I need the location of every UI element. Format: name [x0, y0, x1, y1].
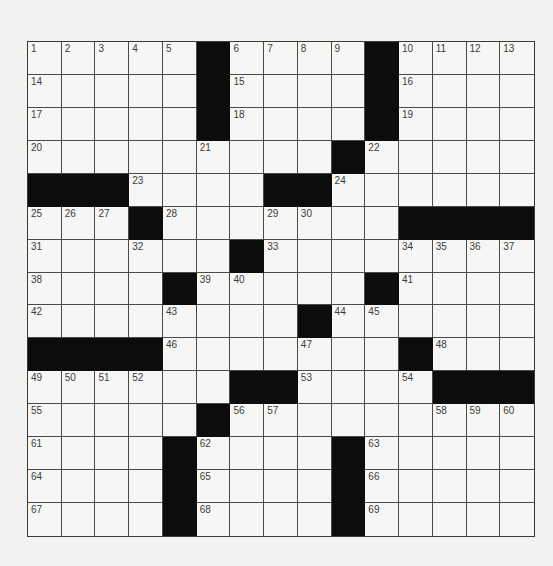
- grid-cell[interactable]: [197, 240, 231, 273]
- grid-cell[interactable]: 33: [264, 240, 298, 273]
- grid-cell[interactable]: 65: [197, 470, 231, 503]
- grid-cell[interactable]: [163, 404, 197, 437]
- grid-cell[interactable]: [467, 174, 501, 207]
- grid-cell[interactable]: [500, 470, 534, 503]
- grid-cell[interactable]: [399, 437, 433, 470]
- grid-cell[interactable]: 31: [28, 240, 62, 273]
- grid-cell[interactable]: [230, 207, 264, 240]
- grid-cell[interactable]: [230, 174, 264, 207]
- grid-cell[interactable]: [500, 338, 534, 371]
- grid-cell[interactable]: [163, 141, 197, 174]
- grid-cell[interactable]: 32: [129, 240, 163, 273]
- grid-cell[interactable]: [433, 75, 467, 108]
- grid-cell[interactable]: 48: [433, 338, 467, 371]
- grid-cell[interactable]: 41: [399, 273, 433, 306]
- grid-cell[interactable]: [230, 437, 264, 470]
- grid-cell[interactable]: 23: [129, 174, 163, 207]
- grid-cell[interactable]: [197, 174, 231, 207]
- grid-cell[interactable]: [298, 404, 332, 437]
- grid-cell[interactable]: 46: [163, 338, 197, 371]
- grid-cell[interactable]: [197, 207, 231, 240]
- grid-cell[interactable]: [62, 503, 96, 536]
- grid-cell[interactable]: [197, 371, 231, 404]
- grid-cell[interactable]: 54: [399, 371, 433, 404]
- grid-cell[interactable]: [95, 305, 129, 338]
- grid-cell[interactable]: [163, 240, 197, 273]
- grid-cell[interactable]: 52: [129, 371, 163, 404]
- grid-cell[interactable]: [332, 108, 366, 141]
- grid-cell[interactable]: 5: [163, 42, 197, 75]
- grid-cell[interactable]: 8: [298, 42, 332, 75]
- grid-cell[interactable]: 9: [332, 42, 366, 75]
- grid-cell[interactable]: 51: [95, 371, 129, 404]
- grid-cell[interactable]: 34: [399, 240, 433, 273]
- grid-cell[interactable]: [332, 75, 366, 108]
- grid-cell[interactable]: [62, 240, 96, 273]
- grid-cell[interactable]: [62, 141, 96, 174]
- grid-cell[interactable]: 26: [62, 207, 96, 240]
- grid-cell[interactable]: 39: [197, 273, 231, 306]
- grid-cell[interactable]: [500, 437, 534, 470]
- grid-cell[interactable]: 11: [433, 42, 467, 75]
- grid-cell[interactable]: 59: [467, 404, 501, 437]
- grid-cell[interactable]: [163, 75, 197, 108]
- grid-cell[interactable]: [332, 207, 366, 240]
- grid-cell[interactable]: [332, 338, 366, 371]
- grid-cell[interactable]: 17: [28, 108, 62, 141]
- grid-cell[interactable]: [129, 470, 163, 503]
- grid-cell[interactable]: [433, 437, 467, 470]
- grid-cell[interactable]: 16: [399, 75, 433, 108]
- grid-cell[interactable]: 69: [365, 503, 399, 536]
- grid-cell[interactable]: 27: [95, 207, 129, 240]
- grid-cell[interactable]: 25: [28, 207, 62, 240]
- grid-cell[interactable]: [500, 273, 534, 306]
- grid-cell[interactable]: 47: [298, 338, 332, 371]
- grid-cell[interactable]: [264, 141, 298, 174]
- grid-cell[interactable]: [332, 371, 366, 404]
- grid-cell[interactable]: [129, 108, 163, 141]
- grid-cell[interactable]: [467, 437, 501, 470]
- grid-cell[interactable]: 13: [500, 42, 534, 75]
- grid-cell[interactable]: [197, 338, 231, 371]
- grid-cell[interactable]: 45: [365, 305, 399, 338]
- grid-cell[interactable]: [433, 503, 467, 536]
- grid-cell[interactable]: [399, 305, 433, 338]
- grid-cell[interactable]: 50: [62, 371, 96, 404]
- grid-cell[interactable]: [95, 108, 129, 141]
- grid-cell[interactable]: [467, 470, 501, 503]
- grid-cell[interactable]: [163, 108, 197, 141]
- grid-cell[interactable]: [129, 141, 163, 174]
- grid-cell[interactable]: [129, 273, 163, 306]
- grid-cell[interactable]: [500, 305, 534, 338]
- grid-cell[interactable]: [129, 75, 163, 108]
- grid-cell[interactable]: [467, 141, 501, 174]
- grid-cell[interactable]: [230, 141, 264, 174]
- grid-cell[interactable]: 14: [28, 75, 62, 108]
- grid-cell[interactable]: 61: [28, 437, 62, 470]
- grid-cell[interactable]: [264, 437, 298, 470]
- grid-cell[interactable]: [365, 207, 399, 240]
- grid-cell[interactable]: [62, 404, 96, 437]
- grid-cell[interactable]: [95, 273, 129, 306]
- grid-cell[interactable]: 7: [264, 42, 298, 75]
- grid-cell[interactable]: [95, 503, 129, 536]
- grid-cell[interactable]: 22: [365, 141, 399, 174]
- grid-cell[interactable]: [399, 470, 433, 503]
- grid-cell[interactable]: [298, 108, 332, 141]
- grid-cell[interactable]: [129, 503, 163, 536]
- grid-cell[interactable]: 63: [365, 437, 399, 470]
- grid-cell[interactable]: 1: [28, 42, 62, 75]
- grid-cell[interactable]: [264, 108, 298, 141]
- grid-cell[interactable]: 68: [197, 503, 231, 536]
- grid-cell[interactable]: [230, 503, 264, 536]
- grid-cell[interactable]: 35: [433, 240, 467, 273]
- grid-cell[interactable]: 49: [28, 371, 62, 404]
- grid-cell[interactable]: 37: [500, 240, 534, 273]
- grid-cell[interactable]: [500, 141, 534, 174]
- grid-cell[interactable]: 53: [298, 371, 332, 404]
- grid-cell[interactable]: [332, 240, 366, 273]
- grid-cell[interactable]: [95, 75, 129, 108]
- grid-cell[interactable]: 67: [28, 503, 62, 536]
- grid-cell[interactable]: [332, 273, 366, 306]
- grid-cell[interactable]: [298, 240, 332, 273]
